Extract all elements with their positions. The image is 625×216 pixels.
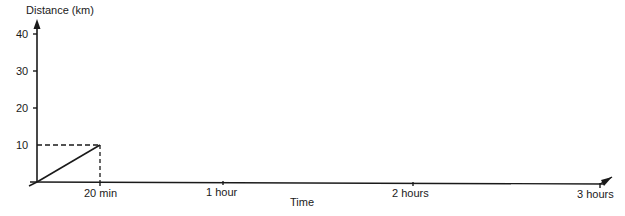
y-axis-label: Distance (km) <box>26 4 94 16</box>
x-tick-label-20min: 20 min <box>84 187 117 199</box>
x-axis-label: Time <box>290 196 314 208</box>
distance-time-chart: Distance (km) 40 30 20 10 20 min 1 hour … <box>0 0 625 216</box>
x-axis <box>30 182 604 184</box>
series-distance-line <box>37 145 100 182</box>
x-tick-label-1hour: 1 hour <box>206 186 238 198</box>
y-tick-label-20: 20 <box>16 102 28 114</box>
y-tick-label-30: 30 <box>16 65 28 77</box>
x-tick-label-2hours: 2 hours <box>392 187 429 199</box>
y-tick-label-40: 40 <box>16 28 28 40</box>
y-tick-label-10: 10 <box>16 139 28 151</box>
x-tick-label-3hours: 3 hours <box>577 188 614 200</box>
y-axis-arrow-icon <box>34 19 41 29</box>
